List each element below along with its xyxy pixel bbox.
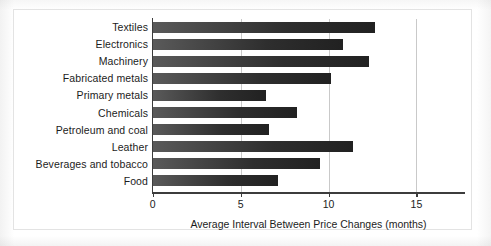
category-label: Machinery bbox=[99, 55, 148, 67]
tick-mark bbox=[153, 193, 154, 197]
bar bbox=[153, 39, 343, 50]
bar bbox=[153, 175, 278, 186]
bar bbox=[153, 73, 331, 84]
tick-label: 0 bbox=[150, 198, 156, 210]
tick-mark bbox=[241, 193, 242, 197]
category-label: Beverages and tobacco bbox=[36, 158, 148, 170]
tick-label: 10 bbox=[323, 198, 335, 210]
category-label: Food bbox=[124, 175, 148, 187]
bar bbox=[153, 124, 269, 135]
tick-label: 5 bbox=[238, 198, 244, 210]
category-label: Fabricated metals bbox=[63, 72, 148, 84]
category-label: Electronics bbox=[96, 38, 148, 50]
bar bbox=[153, 56, 369, 67]
bar bbox=[153, 90, 266, 101]
gridline-15 bbox=[416, 19, 417, 192]
chart-screenshot: TextilesElectronicsMachineryFabricated m… bbox=[0, 0, 491, 246]
tick-mark bbox=[416, 193, 417, 197]
tick-mark bbox=[329, 193, 330, 197]
category-label: Textiles bbox=[112, 21, 148, 33]
x-axis-title: Average Interval Between Price Changes (… bbox=[152, 218, 465, 230]
bar bbox=[153, 22, 375, 33]
bar bbox=[153, 107, 297, 118]
y-axis-line bbox=[152, 18, 153, 193]
plot-area: TextilesElectronicsMachineryFabricated m… bbox=[0, 0, 491, 246]
tick-label: 15 bbox=[411, 198, 423, 210]
bar bbox=[153, 141, 353, 152]
category-label: Primary metals bbox=[77, 89, 148, 101]
category-label: Chemicals bbox=[98, 107, 148, 119]
category-label: Leather bbox=[112, 141, 148, 153]
category-label: Petroleum and coal bbox=[56, 124, 148, 136]
x-axis-line bbox=[152, 192, 465, 194]
bar bbox=[153, 158, 320, 169]
